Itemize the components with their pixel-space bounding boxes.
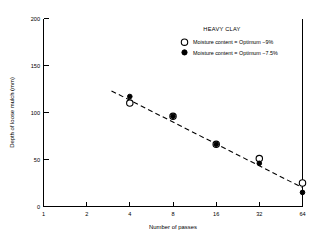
scatter-plot: 0 50 100 150 200 1 2 4 8 16 32 64 Number… bbox=[0, 0, 322, 238]
y-axis-title: Depth of loose mulch (mm) bbox=[9, 77, 15, 148]
x-tick-label-8: 8 bbox=[171, 211, 174, 217]
soil-type-annotation: HEAVY CLAY bbox=[203, 26, 240, 32]
y-tick-label-200: 200 bbox=[31, 16, 40, 22]
data-point-filled-16 bbox=[214, 142, 219, 147]
y-tick-label-0: 0 bbox=[37, 204, 40, 210]
y-tick-label-50: 50 bbox=[34, 157, 40, 163]
x-tick-label-64: 64 bbox=[299, 211, 305, 217]
y-tick-label-150: 150 bbox=[31, 63, 40, 69]
data-point-filled-8 bbox=[171, 114, 176, 119]
y-axis-ticks bbox=[44, 19, 49, 207]
x-tick-label-1: 1 bbox=[42, 211, 45, 217]
series-filled-circles bbox=[128, 94, 305, 195]
legend-label-optimum-75: Moisture content = Optimum −7.5% bbox=[193, 50, 278, 56]
legend: Moisture content = Optimum −9% Moisture … bbox=[181, 39, 278, 56]
x-axis-ticks bbox=[44, 202, 303, 207]
x-tick-label-16: 16 bbox=[213, 211, 219, 217]
trend-line bbox=[112, 91, 303, 188]
legend-label-optimum-9: Moisture content = Optimum −9% bbox=[193, 39, 274, 45]
data-point-filled-64 bbox=[300, 190, 305, 195]
x-tick-label-4: 4 bbox=[128, 211, 131, 217]
legend-marker-open-circle-icon bbox=[181, 39, 187, 45]
x-axis-title: Number of passes bbox=[149, 224, 197, 230]
data-point-open-64 bbox=[299, 180, 305, 186]
y-tick-label-100: 100 bbox=[31, 110, 40, 116]
legend-marker-filled-circle-icon bbox=[182, 50, 187, 55]
x-tick-label-2: 2 bbox=[85, 211, 88, 217]
x-tick-label-32: 32 bbox=[256, 211, 262, 217]
data-point-filled-32 bbox=[257, 161, 262, 166]
data-point-filled-4 bbox=[128, 94, 133, 99]
data-point-open-4 bbox=[127, 100, 133, 106]
chart-figure: 0 50 100 150 200 1 2 4 8 16 32 64 Number… bbox=[0, 0, 322, 238]
